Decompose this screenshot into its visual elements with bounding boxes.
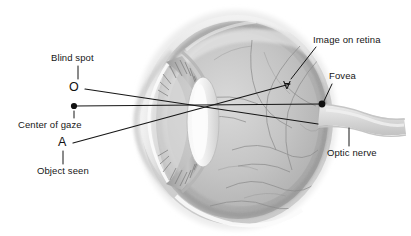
label-blind-spot: Blind spot <box>51 52 94 63</box>
marker-object-A: A <box>58 136 66 149</box>
fovea-dot <box>319 101 326 108</box>
label-object-seen: Object seen <box>37 165 89 176</box>
center-of-gaze-dot <box>71 103 77 109</box>
eye-diagram-figure: Blind spot O Center of gaze A Object see… <box>0 0 411 236</box>
lens-core-highlight <box>192 84 208 160</box>
label-fovea: Fovea <box>329 70 356 81</box>
label-image-on-retina: Image on retina <box>313 34 381 45</box>
marker-retinal-image-A: A <box>283 78 291 91</box>
label-center-of-gaze: Center of gaze <box>18 119 82 130</box>
label-optic-nerve: Optic nerve <box>327 147 377 158</box>
marker-blind-spot-O: O <box>69 81 79 94</box>
